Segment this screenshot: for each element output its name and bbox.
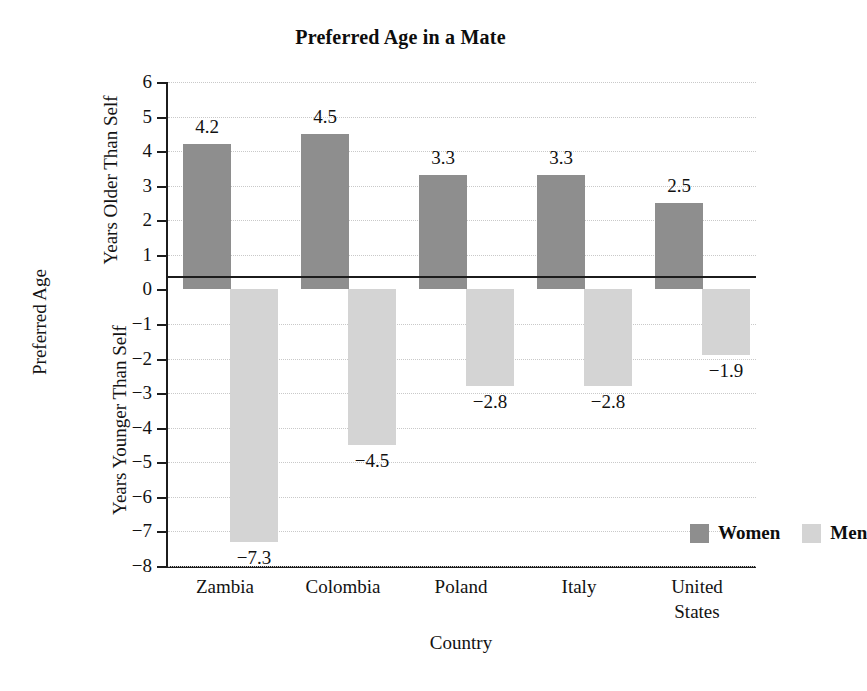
x-category-label: Italy <box>514 574 644 599</box>
legend-item-women: Women <box>690 522 780 544</box>
bar-value-label-men: −7.3 <box>212 547 296 569</box>
bar-value-label-women: 3.3 <box>401 147 485 169</box>
y-tick-mark <box>157 359 167 361</box>
y-tick-mark <box>157 186 167 188</box>
y-axis-label-lower: Years Younger Than Self <box>108 295 132 545</box>
y-tick-mark <box>157 462 167 464</box>
x-category-label-line: Poland <box>396 574 526 599</box>
y-tick-mark <box>157 531 167 533</box>
bar-men <box>702 289 750 355</box>
y-tick-label: 3 <box>143 175 153 197</box>
y-tick-label: 1 <box>143 244 153 266</box>
bar-women <box>183 144 231 289</box>
bar-women <box>419 175 467 289</box>
x-category-label: Colombia <box>278 574 408 599</box>
chart-legend: Women Men <box>690 522 867 544</box>
bar-value-label-women: 3.3 <box>519 147 603 169</box>
y-tick-mark <box>157 289 167 291</box>
y-tick-label: 2 <box>143 209 153 231</box>
y-tick-mark <box>157 497 167 499</box>
x-axis-label: Country <box>166 632 756 654</box>
x-category-label-line: Italy <box>514 574 644 599</box>
x-category-label: Poland <box>396 574 526 599</box>
legend-label-women: Women <box>718 522 780 544</box>
bar-men <box>230 289 278 541</box>
y-tick-label: 6 <box>143 71 153 93</box>
x-category-label-line: States <box>632 599 762 624</box>
bar-value-label-women: 2.5 <box>637 175 721 197</box>
y-tick-mark <box>157 255 167 257</box>
legend-swatch-men <box>802 524 821 543</box>
x-category-label-line: Colombia <box>278 574 408 599</box>
y-tick-mark <box>157 393 167 395</box>
bar-men <box>348 289 396 445</box>
bar-value-label-women: 4.5 <box>283 106 367 128</box>
bar-value-label-women: 4.2 <box>165 116 249 138</box>
y-axis-label-upper: Years Older Than Self <box>99 60 123 300</box>
y-tick-mark <box>157 82 167 84</box>
y-tick-label: −4 <box>132 417 152 439</box>
x-category-label-line: United <box>632 574 762 599</box>
bar-value-label-men: −2.8 <box>448 391 532 413</box>
bar-men <box>466 289 514 386</box>
y-tick-label: −7 <box>132 520 152 542</box>
y-tick-label: −5 <box>132 451 152 473</box>
y-tick-label: −6 <box>132 486 152 508</box>
x-category-label: Zambia <box>160 574 290 599</box>
y-axis-label-outer: Preferred Age <box>28 222 52 422</box>
bar-women <box>537 175 585 289</box>
legend-item-men: Men <box>802 522 867 544</box>
y-tick-mark <box>157 220 167 222</box>
bar-value-label-men: −2.8 <box>566 391 650 413</box>
y-tick-label: −1 <box>132 313 152 335</box>
bar-value-label-men: −4.5 <box>330 450 414 472</box>
bar-women <box>301 134 349 290</box>
y-tick-label: 4 <box>143 140 153 162</box>
gridline <box>168 82 756 83</box>
zero-baseline <box>166 276 756 278</box>
x-category-label-line: Zambia <box>160 574 290 599</box>
bar-men <box>584 289 632 386</box>
gridline <box>168 117 756 118</box>
plot-area: 6543210−1−2−3−4−5−6−7−8 4.2−7.34.5−4.53.… <box>166 82 756 568</box>
y-tick-mark <box>157 151 167 153</box>
y-tick-label: 0 <box>143 278 153 300</box>
legend-label-men: Men <box>830 522 867 544</box>
y-tick-label: −3 <box>132 382 152 404</box>
legend-swatch-women <box>690 524 709 543</box>
y-tick-label: −8 <box>132 555 152 577</box>
y-tick-mark <box>157 566 167 568</box>
x-category-label: UnitedStates <box>632 574 762 624</box>
chart-title: Preferred Age in a Mate <box>0 26 801 49</box>
y-tick-mark <box>157 428 167 430</box>
y-tick-label: 5 <box>143 106 153 128</box>
y-tick-label: −2 <box>132 348 152 370</box>
bar-value-label-men: −1.9 <box>684 360 768 382</box>
y-tick-mark <box>157 324 167 326</box>
